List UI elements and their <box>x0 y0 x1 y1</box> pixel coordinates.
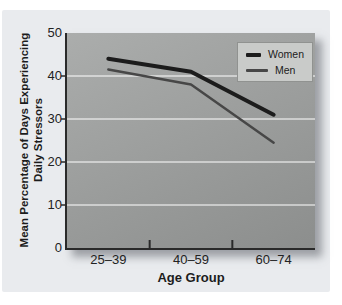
legend-item-men: Men <box>246 65 304 76</box>
legend-label-men: Men <box>275 65 295 76</box>
women-line-swatch <box>246 53 261 57</box>
x-tick-label-25-39: 25–39 <box>67 252 150 267</box>
men-line-swatch <box>246 69 268 72</box>
y-tick-label-20: 20 <box>22 155 62 169</box>
y-tick-label-50: 50 <box>22 26 62 40</box>
x-tick-labels: 25–39 40–59 60–74 <box>67 252 315 267</box>
page: { "figure": { "card_background": "#e9ebe… <box>0 0 342 305</box>
y-tick-label-0: 0 <box>22 241 62 255</box>
x-tick-label-60-74: 60–74 <box>232 252 315 267</box>
x-axis-title: Age Group <box>67 270 315 285</box>
y-tick-label-40: 40 <box>22 69 62 83</box>
plot-area: Women Men <box>65 33 315 250</box>
legend-item-women: Women <box>246 49 304 60</box>
legend: Women Men <box>237 42 313 82</box>
legend-label-women: Women <box>268 49 304 60</box>
y-tick-label-10: 10 <box>22 198 62 212</box>
x-tick-label-40-59: 40–59 <box>150 252 233 267</box>
y-axis-title: Mean Percentage of Days Experiencing Dai… <box>17 15 47 265</box>
y-tick-label-30: 30 <box>22 112 62 126</box>
